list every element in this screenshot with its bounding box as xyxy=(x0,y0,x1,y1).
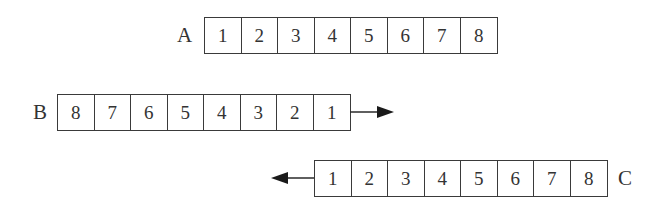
row-c-label: C xyxy=(618,160,632,197)
cell: 7 xyxy=(95,95,132,130)
cell: 3 xyxy=(241,95,278,130)
cell: 5 xyxy=(351,18,388,53)
cell: 1 xyxy=(314,95,351,130)
cell: 7 xyxy=(534,161,571,196)
cell: 1 xyxy=(315,161,352,196)
cell: 8 xyxy=(461,18,498,53)
cell: 4 xyxy=(315,18,352,53)
cell: 3 xyxy=(278,18,315,53)
cell: 6 xyxy=(388,18,425,53)
cell: 5 xyxy=(461,161,498,196)
row-c-cells: 1 2 3 4 5 6 7 8 xyxy=(314,160,608,197)
arrow-right-icon xyxy=(350,104,396,120)
cell: 3 xyxy=(388,161,425,196)
row-a-cells: 1 2 3 4 5 6 7 8 xyxy=(204,17,498,54)
row-b-label: B xyxy=(33,94,47,131)
cell: 8 xyxy=(571,161,608,196)
cell: 6 xyxy=(498,161,535,196)
arrow-left-icon xyxy=(271,170,315,186)
row-a-label: A xyxy=(177,17,192,54)
cell: 7 xyxy=(424,18,461,53)
cell: 8 xyxy=(58,95,95,130)
cell: 2 xyxy=(242,18,279,53)
cell: 5 xyxy=(168,95,205,130)
cell: 2 xyxy=(277,95,314,130)
row-b-cells: 8 7 6 5 4 3 2 1 xyxy=(57,94,351,131)
cell: 1 xyxy=(205,18,242,53)
cell: 6 xyxy=(131,95,168,130)
cell: 4 xyxy=(204,95,241,130)
cell: 4 xyxy=(425,161,462,196)
cell: 2 xyxy=(352,161,389,196)
